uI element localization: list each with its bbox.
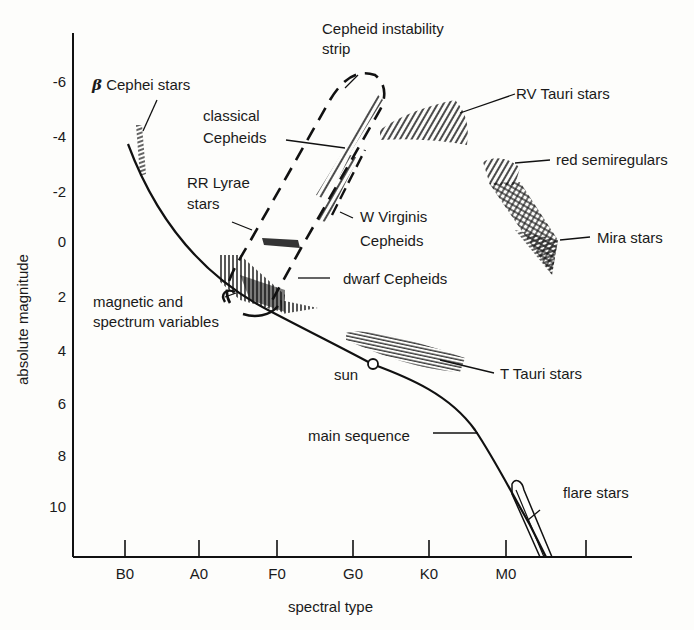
- label-instability-strip-1: Cepheid instability: [322, 20, 444, 38]
- rr-lyrae-region: [262, 238, 300, 248]
- label-dwarf-cepheids: dwarf Cepheids: [343, 270, 447, 288]
- label-rv-tauri: RV Tauri stars: [516, 85, 610, 103]
- label-flare-stars: flare stars: [563, 484, 629, 502]
- y-axis-title: absolute magnitude: [14, 254, 31, 385]
- label-rr-lyrae-1: RR Lyrae: [187, 174, 250, 192]
- y-tick-label: 6: [36, 395, 66, 413]
- rv-tauri-region: [380, 100, 468, 145]
- label-red-semiregulars: red semiregulars: [556, 151, 668, 169]
- x-tick-label: A0: [179, 565, 219, 583]
- sun-marker: [368, 359, 378, 369]
- flare-stars-region: [512, 481, 552, 557]
- beta-cephei-text: Cephei stars: [106, 76, 190, 93]
- label-magnetic-2: spectrum variables: [93, 313, 219, 331]
- x-tick-label: G0: [333, 565, 373, 583]
- y-tick-label: -2: [36, 183, 66, 201]
- y-tick-label: 4: [36, 342, 66, 360]
- x-tick-label: B0: [105, 565, 145, 583]
- x-tick-label: M0: [486, 565, 526, 583]
- x-axis-title: spectral type: [288, 598, 373, 615]
- label-instability-strip-2: strip: [322, 40, 350, 58]
- label-t-tauri: T Tauri stars: [500, 365, 582, 383]
- y-tick-label: -6: [36, 73, 66, 91]
- label-w-virginis-1: W Virginis: [360, 208, 427, 226]
- label-classical-cepheids-1: classical: [203, 107, 260, 125]
- beta-symbol: β: [92, 76, 102, 94]
- label-sun: sun: [334, 366, 358, 384]
- y-tick-label: 10: [36, 498, 66, 516]
- y-tick-label: -4: [36, 128, 66, 146]
- label-mira: Mira stars: [597, 229, 663, 247]
- red-semiregulars-region: [483, 158, 520, 185]
- label-magnetic-1: magnetic and: [93, 293, 183, 311]
- label-beta-cephei: β Cephei stars: [92, 76, 190, 94]
- y-tick-label: 0: [36, 233, 66, 251]
- y-tick-label: 2: [36, 288, 66, 306]
- t-tauri-region: [346, 331, 465, 372]
- label-rr-lyrae-2: stars: [187, 195, 220, 213]
- label-classical-cepheids-2: Cepheids: [203, 129, 266, 147]
- label-w-virginis-2: Cepheids: [360, 232, 423, 250]
- x-tick-label: F0: [257, 565, 297, 583]
- dwarf-cepheids-region: [280, 300, 318, 314]
- y-tick-label: 8: [36, 447, 66, 465]
- label-main-sequence: main sequence: [308, 427, 410, 445]
- x-tick-label: K0: [409, 565, 449, 583]
